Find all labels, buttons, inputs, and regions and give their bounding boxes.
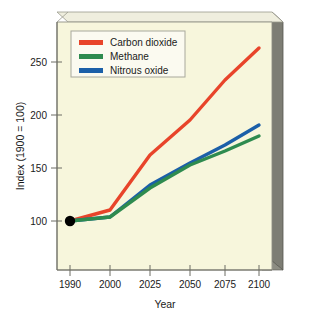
x-tick-label-2075: 2075 [214, 279, 237, 290]
y-tick-label-150: 150 [30, 163, 47, 174]
x-tick-label-2000: 2000 [99, 279, 122, 290]
legend: Carbon dioxide Methane Nitrous oxide [71, 31, 185, 77]
origin-marker-icon [65, 216, 75, 226]
figure-container: 250 200 150 100 1990 2000 2025 2050 2075… [0, 0, 311, 316]
y-axis-title: Index (1900 = 100) [14, 102, 26, 190]
box-top-face [57, 12, 283, 22]
y-tick-label-250: 250 [30, 57, 47, 68]
chart-svg: 250 200 150 100 1990 2000 2025 2050 2075… [0, 0, 311, 316]
legend-swatch-nitrous-oxide [79, 68, 103, 73]
x-tick-label-2050: 2050 [179, 279, 202, 290]
x-tick-label-1990: 1990 [59, 279, 82, 290]
legend-swatch-carbon-dioxide [79, 40, 103, 45]
x-tick-label-2100: 2100 [248, 279, 271, 290]
y-tick-label-200: 200 [30, 110, 47, 121]
box-right-face [272, 12, 283, 270]
legend-swatch-methane [79, 54, 103, 59]
legend-label-methane: Methane [110, 51, 149, 62]
y-tick-label-100: 100 [30, 216, 47, 227]
x-tick-label-2025: 2025 [139, 279, 162, 290]
x-axis-title: Year [154, 298, 176, 310]
legend-label-carbon-dioxide: Carbon dioxide [110, 37, 178, 48]
legend-label-nitrous-oxide: Nitrous oxide [110, 65, 169, 76]
